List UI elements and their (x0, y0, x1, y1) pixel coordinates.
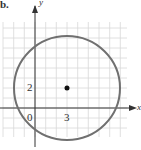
x-tick-label: 3 (64, 111, 70, 123)
x-axis-arrow-icon (129, 105, 137, 111)
part-label: b. (0, 0, 9, 10)
y-axis-label: y (39, 0, 43, 7)
y-tick-label: 2 (27, 81, 33, 93)
x-axis-label: x (137, 102, 141, 112)
y-axis-arrow-icon (32, 5, 38, 13)
circle-graph (0, 0, 141, 150)
origin-label: 0 (27, 111, 33, 123)
center-point (65, 86, 70, 91)
